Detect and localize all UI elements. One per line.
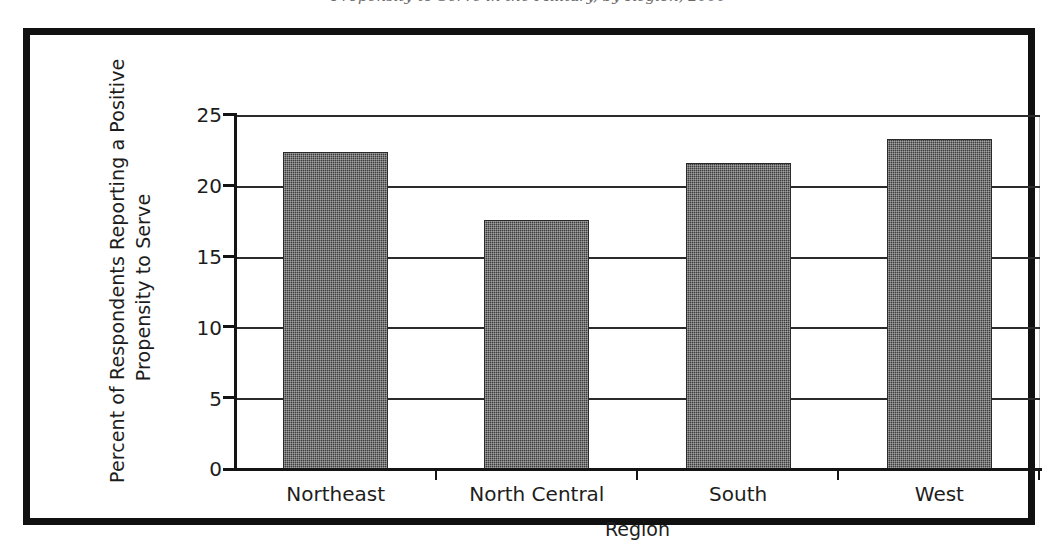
- y-tick-mark-5: [223, 396, 236, 399]
- y-axis-title-line-2: Propensity to Serve: [132, 160, 154, 415]
- y-tick-label-5: 5: [178, 389, 222, 409]
- y-tick-mark-10: [223, 325, 236, 328]
- y-tick-label-0: 0: [178, 459, 222, 479]
- x-axis-tick-labels: Northeast North Central South West: [235, 482, 1040, 514]
- y-axis-line: [234, 113, 237, 471]
- y-tick-mark-15: [223, 255, 236, 258]
- y-tick-mark-20: [223, 184, 236, 187]
- x-tick-mark-3: [837, 469, 839, 480]
- x-axis-title: Region: [235, 518, 1040, 540]
- y-tick-label-20: 20: [178, 176, 222, 196]
- x-tick-mark-2: [636, 469, 638, 480]
- y-tick-label-10: 10: [178, 318, 222, 338]
- y-tick-label-15: 15: [178, 247, 222, 267]
- y-axis-tick-labels: 25 20 15 10 5 0: [170, 35, 222, 550]
- y-axis-title-line-1: Percent of Respondents Reporting a Posit…: [106, 93, 128, 483]
- y-tick-mark-25: [223, 113, 236, 116]
- bar-slot-west: [839, 115, 1040, 469]
- figure-caption: Propensity to Serve in the Military, by …: [0, 0, 1058, 5]
- figure-frame: Percent of Respondents Reporting a Posit…: [23, 28, 1035, 525]
- figure-caption-strip: Propensity to Serve in the Military, by …: [0, 0, 1058, 14]
- bar-slot-north-central: [436, 115, 637, 469]
- x-tick-mark-4: [1038, 469, 1040, 480]
- y-tick-label-25: 25: [178, 105, 222, 125]
- bars-layer: [235, 115, 1040, 469]
- plot-area: [235, 115, 1040, 469]
- y-tick-mark-0: [223, 468, 236, 471]
- bar-south[interactable]: [686, 163, 791, 469]
- x-tick-label-northeast: Northeast: [235, 482, 436, 514]
- x-tick-label-west: West: [839, 482, 1040, 514]
- x-axis-line: [234, 468, 1042, 471]
- x-tick-label-north-central: North Central: [436, 482, 637, 514]
- bar-slot-northeast: [235, 115, 436, 469]
- bar-north-central[interactable]: [484, 220, 589, 469]
- bar-slot-south: [638, 115, 839, 469]
- x-tick-label-south: South: [638, 482, 839, 514]
- bar-west[interactable]: [887, 139, 992, 469]
- x-tick-mark-1: [435, 469, 437, 480]
- bar-northeast[interactable]: [283, 152, 388, 469]
